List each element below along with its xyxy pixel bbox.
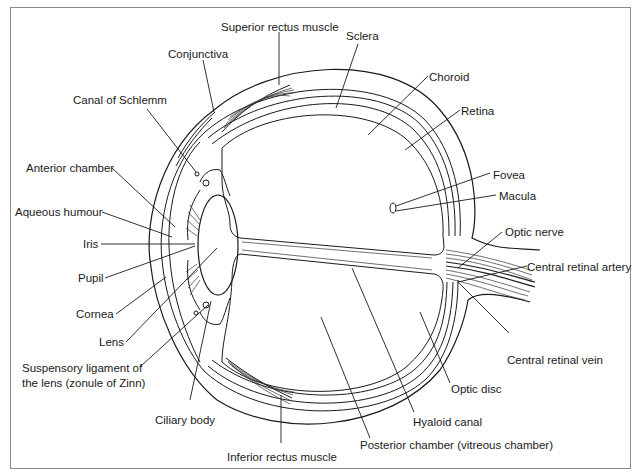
choroid-lower-2	[208, 282, 453, 403]
label-cornea: Cornea	[76, 308, 114, 320]
canal-of-schlemm-upper	[203, 180, 209, 186]
label-inferior-rectus-muscle: Inferior rectus muscle	[227, 451, 337, 463]
labels: Superior rectus muscle Sclera Conjunctiv…	[15, 21, 631, 463]
optic-nerve	[446, 250, 535, 300]
label-conjunctiva: Conjunctiva	[168, 48, 229, 60]
label-anterior-chamber: Anterior chamber	[26, 162, 114, 174]
label-retina: Retina	[461, 105, 495, 117]
inferior-rectus-muscle	[226, 358, 294, 404]
choroid-upper-2	[208, 96, 455, 236]
label-superior-rectus-muscle: Superior rectus muscle	[221, 21, 339, 33]
label-central-retinal-vein: Central retinal vein	[507, 354, 603, 366]
hyaloid-canal-upper	[242, 242, 432, 258]
label-optic-disc: Optic disc	[451, 383, 502, 395]
anterior-segment	[149, 110, 238, 400]
conjunctiva-line-2	[176, 118, 212, 166]
label-choroid: Choroid	[429, 71, 469, 83]
eyeball	[205, 69, 540, 424]
canal-dot-upper	[195, 172, 199, 176]
retina-upper	[212, 104, 449, 236]
vitreous-upper	[222, 115, 444, 255]
superior-rectus-muscle	[222, 85, 294, 132]
label-macula: Macula	[499, 190, 537, 202]
label-posterior-chamber: Posterior chamber (vitreous chamber)	[360, 439, 553, 451]
label-iris: Iris	[83, 238, 99, 250]
hyaloid-canal-lower	[242, 250, 432, 270]
sclera-outer	[214, 69, 540, 250]
label-aqueous-humour: Aqueous humour	[15, 206, 103, 218]
label-canal-of-schlemm: Canal of Schlemm	[73, 94, 167, 106]
ciliary-body-upper	[200, 170, 230, 197]
label-suspensory-ligament-line1: Suspensory ligament of	[22, 362, 143, 374]
eye-diagram: Superior rectus muscle Sclera Conjunctiv…	[0, 0, 637, 474]
label-lens: Lens	[99, 336, 124, 348]
label-fovea: Fovea	[493, 169, 526, 181]
fovea-pit	[390, 203, 396, 213]
label-hyaloid-canal: Hyaloid canal	[413, 416, 482, 428]
vitreous-lower	[222, 254, 443, 391]
label-pupil: Pupil	[78, 272, 104, 284]
lens	[198, 195, 238, 295]
label-ciliary-body: Ciliary body	[155, 414, 215, 426]
label-suspensory-ligament-line2: the lens (zonule of Zinn)	[22, 377, 146, 389]
label-sclera: Sclera	[346, 30, 379, 42]
label-central-retinal-artery: Central retinal artery	[527, 261, 631, 273]
label-optic-nerve: Optic nerve	[505, 226, 564, 238]
